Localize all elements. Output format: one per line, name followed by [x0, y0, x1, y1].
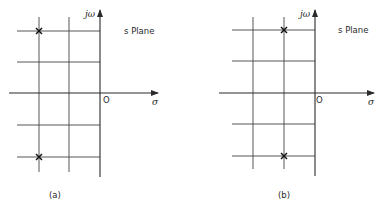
plane-label: s Plane	[124, 26, 154, 36]
plane-label: s Plane	[338, 25, 368, 35]
panel-caption: (a)	[49, 190, 61, 200]
grid-lines	[17, 17, 100, 172]
origin-label: O	[316, 95, 323, 105]
imag-axis-label: jω	[83, 9, 96, 19]
s-plane-figure: jω s Plane O σ (a) jω s Plane O σ (b)	[0, 0, 384, 214]
panel-b: jω s Plane O σ (b)	[219, 9, 375, 200]
imag-axis-label: jω	[298, 9, 311, 19]
panel-caption: (b)	[278, 190, 290, 200]
origin-label: O	[103, 95, 110, 105]
real-axis-label: σ	[152, 97, 159, 107]
panel-a: jω s Plane O σ (a)	[9, 9, 159, 200]
real-axis-label: σ	[368, 97, 375, 107]
